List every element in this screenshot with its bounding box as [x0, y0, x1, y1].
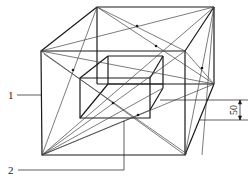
- node-dot: [137, 114, 140, 117]
- outer-bottom-right-connector: [185, 84, 214, 155]
- dimension-label: 50: [228, 105, 239, 115]
- callout-1: 1: [8, 89, 41, 101]
- diagram-canvas: 50 1 2: [0, 0, 250, 181]
- arrow-down-icon: [239, 116, 242, 120]
- arrow-up-icon: [239, 100, 242, 104]
- callout-2: 2: [8, 121, 124, 176]
- node-dot: [201, 67, 204, 70]
- node-dot: [136, 25, 139, 28]
- node-dot: [112, 102, 115, 105]
- leader-line-2: [18, 121, 124, 170]
- node-dot: [72, 69, 75, 72]
- diagonal-bracing: [41, 7, 214, 155]
- callout-label-1: 1: [8, 89, 14, 101]
- callout-label-2: 2: [8, 164, 14, 176]
- node-dot: [155, 45, 158, 48]
